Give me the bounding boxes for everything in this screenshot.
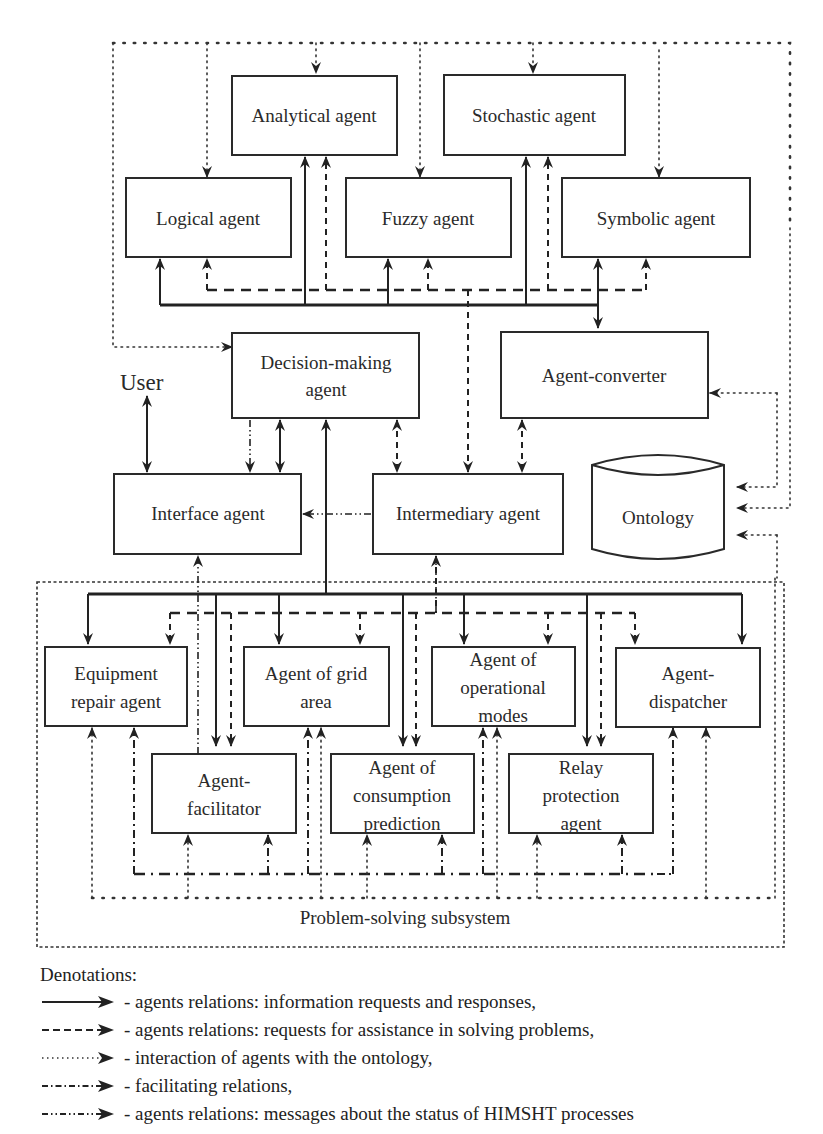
consumption-prediction-label-line2: consumption xyxy=(353,785,452,806)
decision-making-agent-label-line1: Decision-making xyxy=(261,352,392,373)
interface-agent-box[interactable]: Interface agent xyxy=(114,474,301,554)
stochastic-agent-box[interactable]: Stochastic agent xyxy=(444,75,625,155)
fuzzy-agent-label: Fuzzy agent xyxy=(382,208,475,229)
decision-making-agent-box[interactable]: Decision-making agent xyxy=(232,333,419,418)
relay-protection-label-line3: agent xyxy=(560,813,602,834)
problem-solving-subsystem-label: Problem-solving subsystem xyxy=(300,907,511,928)
legend-text-dashed: - agents relations: requests for assista… xyxy=(124,1019,594,1041)
operational-modes-agent-box[interactable]: Agent of operational modes xyxy=(432,647,575,726)
dash-dot-arrow-icon xyxy=(40,1076,120,1096)
dotted-arrow-icon xyxy=(40,1048,120,1068)
analytical-agent-box[interactable]: Analytical agent xyxy=(232,76,397,155)
user-label: User xyxy=(120,370,164,395)
legend-item-dashed: - agents relations: requests for assista… xyxy=(40,1016,820,1044)
consumption-prediction-agent-box[interactable]: Agent of consumption prediction xyxy=(331,754,474,834)
legend-item-dash-dot: - facilitating relations, xyxy=(40,1072,820,1100)
intermediary-agent-box[interactable]: Intermediary agent xyxy=(373,474,563,554)
dash-dot-dot-arrow-icon xyxy=(40,1104,120,1124)
consumption-prediction-label-line1: Agent of xyxy=(368,757,436,778)
relay-protection-agent-box[interactable]: Relay protection agent xyxy=(509,754,653,834)
fuzzy-agent-box[interactable]: Fuzzy agent xyxy=(346,178,511,257)
facilitator-agent-box[interactable]: Agent- facilitator xyxy=(152,754,296,833)
agent-converter-label: Agent-converter xyxy=(542,365,667,386)
legend-item-dash-dot-dot: - agents relations: messages about the s… xyxy=(40,1100,820,1128)
solid-arrow-icon xyxy=(40,992,120,1012)
legend-text-dotted: - interaction of agents with the ontolog… xyxy=(124,1047,433,1069)
operational-modes-label-line2: operational xyxy=(460,677,545,698)
interface-agent-label: Interface agent xyxy=(151,503,265,524)
operational-modes-label-line3: modes xyxy=(478,705,528,726)
legend-title: Denotations: xyxy=(40,962,820,988)
operational-modes-label-line1: Agent of xyxy=(469,649,537,670)
legend-text-solid: - agents relations: information requests… xyxy=(124,991,536,1013)
symbolic-agent-box[interactable]: Symbolic agent xyxy=(562,178,750,257)
equipment-repair-label-line1: Equipment xyxy=(74,663,158,684)
legend-item-dotted: - interaction of agents with the ontolog… xyxy=(40,1044,820,1072)
facilitator-label-line2: facilitator xyxy=(187,798,262,819)
legend-item-solid: - agents relations: information requests… xyxy=(40,988,820,1016)
dashed-arrow-icon xyxy=(40,1020,120,1040)
ontology-label: Ontology xyxy=(622,507,694,528)
intermediary-agent-label: Intermediary agent xyxy=(396,503,541,524)
grid-area-agent-box[interactable]: Agent of grid area xyxy=(244,647,389,726)
stochastic-agent-label: Stochastic agent xyxy=(472,105,597,126)
relay-protection-label-line1: Relay xyxy=(559,757,604,778)
ontology-cylinder[interactable]: Ontology xyxy=(592,455,724,559)
decision-making-agent-label-line2: agent xyxy=(305,379,347,400)
consumption-prediction-label-line3: prediction xyxy=(363,813,441,834)
analytical-agent-label: Analytical agent xyxy=(251,105,377,126)
symbolic-agent-label: Symbolic agent xyxy=(597,208,716,229)
legend-text-dash-dot-dot: - agents relations: messages about the s… xyxy=(124,1103,634,1125)
equipment-repair-agent-box[interactable]: Equipment repair agent xyxy=(45,647,187,726)
dispatcher-label-line1: Agent- xyxy=(662,663,715,684)
agent-converter-box[interactable]: Agent-converter xyxy=(501,332,708,418)
legend-text-dash-dot: - facilitating relations, xyxy=(124,1075,292,1097)
dispatcher-agent-box[interactable]: Agent- dispatcher xyxy=(616,648,760,727)
grid-area-label-line1: Agent of grid xyxy=(265,663,368,684)
logical-agent-box[interactable]: Logical agent xyxy=(126,178,291,257)
relay-protection-label-line2: protection xyxy=(542,785,620,806)
equipment-repair-label-line2: repair agent xyxy=(71,691,162,712)
dispatcher-label-line2: dispatcher xyxy=(649,691,728,712)
grid-area-label-line2: area xyxy=(300,691,332,712)
logical-agent-label: Logical agent xyxy=(156,208,261,229)
facilitator-label-line1: Agent- xyxy=(198,770,251,791)
legend: Denotations: - agents relations: informa… xyxy=(40,962,820,1128)
